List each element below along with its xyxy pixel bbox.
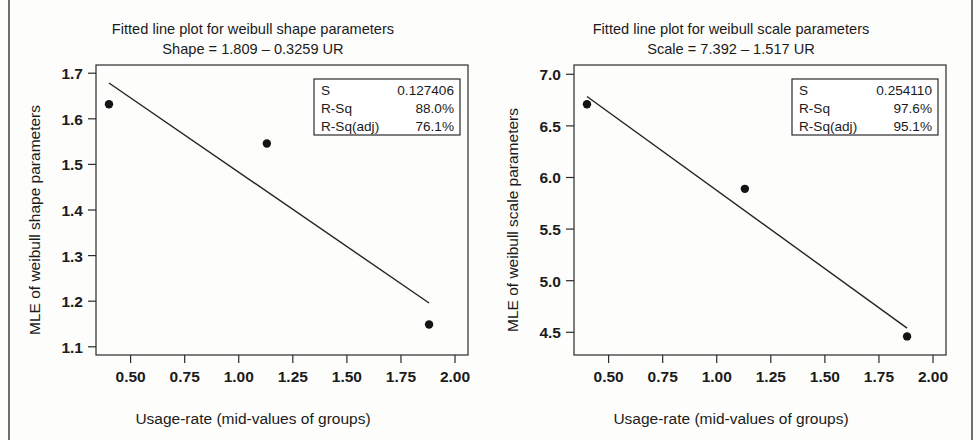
x-tick-label: 0.75 (170, 368, 201, 385)
y-tick-label: 1.3 (61, 248, 83, 265)
y-tick-label: 1.6 (61, 111, 83, 128)
x-tick-label: 1.75 (386, 368, 417, 385)
chart-title-line1: Fitted line plot for weibull scale param… (593, 21, 870, 37)
chart-svg-weibull-scale: Fitted line plot for weibull scale param… (492, 0, 970, 440)
y-tick-label: 6.5 (539, 118, 561, 135)
y-tick-label: 5.0 (539, 273, 561, 290)
y-tick-group: 1.11.21.31.41.51.61.7 (61, 65, 96, 356)
x-tick-group: 0.500.751.001.251.501.752.00 (116, 355, 471, 385)
legend-value-rsqadj: 76.1% (415, 119, 454, 134)
x-tick-label: 1.75 (864, 368, 895, 385)
stats-legend-box: S 0.254110 R-Sq 97.6% R-Sq(adj) 95.1% (792, 79, 938, 135)
chart-title-line2: Scale = 7.392 – 1.517 UR (647, 41, 815, 57)
chart-title-line2: Shape = 1.809 – 0.3259 UR (162, 41, 343, 57)
page-right-border (971, 0, 973, 440)
figure-page: Fitted line plot for weibull shape param… (0, 0, 980, 440)
x-tick-label: 0.75 (648, 368, 679, 385)
y-tick-label: 1.2 (61, 293, 83, 310)
x-tick-label: 0.50 (116, 368, 146, 385)
legend-label-rsqadj: R-Sq(adj) (321, 119, 379, 134)
x-axis-title: Usage-rate (mid-values of groups) (135, 410, 370, 427)
chart-svg-weibull-shape: Fitted line plot for weibull shape param… (14, 0, 492, 440)
y-tick-label: 1.7 (61, 65, 83, 82)
page-left-border (8, 0, 10, 440)
x-tick-label: 1.25 (278, 368, 309, 385)
data-point (425, 320, 433, 328)
y-tick-label: 6.0 (539, 169, 561, 186)
chart-panel-weibull-scale: Fitted line plot for weibull scale param… (492, 0, 970, 440)
y-tick-label: 4.5 (539, 324, 561, 341)
legend-label-rsqadj: R-Sq(adj) (799, 119, 857, 134)
legend-value-rsq: 97.6% (893, 101, 932, 116)
x-tick-label: 1.00 (702, 368, 732, 385)
chart-panel-weibull-shape: Fitted line plot for weibull shape param… (14, 0, 492, 440)
legend-value-rsqadj: 95.1% (893, 119, 932, 134)
y-tick-label: 1.4 (61, 202, 83, 219)
x-tick-label: 1.50 (332, 368, 362, 385)
x-tick-label: 0.50 (594, 368, 624, 385)
x-axis-title: Usage-rate (mid-values of groups) (613, 410, 848, 427)
data-point (263, 139, 271, 147)
x-tick-label: 1.00 (224, 368, 254, 385)
data-point (741, 185, 749, 193)
x-tick-label: 1.50 (810, 368, 840, 385)
x-tick-label: 2.00 (918, 368, 948, 385)
x-tick-label: 1.25 (756, 368, 787, 385)
data-point (903, 332, 911, 340)
legend-value-s: 0.127406 (397, 83, 454, 98)
chart-title-line1: Fitted line plot for weibull shape param… (112, 21, 394, 37)
x-tick-group: 0.500.751.001.251.501.752.00 (594, 355, 949, 385)
y-tick-label: 1.1 (61, 339, 83, 356)
data-point (105, 100, 113, 108)
legend-value-s: 0.254110 (876, 83, 932, 98)
y-axis-title: MLE of weibull scale parameters (504, 108, 521, 332)
legend-label-rsq: R-Sq (799, 101, 830, 116)
legend-label-s: S (321, 83, 330, 98)
y-tick-label: 5.5 (539, 221, 561, 238)
data-point (583, 100, 591, 108)
y-tick-label: 7.0 (539, 66, 561, 83)
legend-label-rsq: R-Sq (321, 101, 352, 116)
legend-value-rsq: 88.0% (415, 101, 454, 116)
y-axis-title: MLE of weibull shape parameters (26, 105, 43, 335)
y-tick-label: 1.5 (61, 156, 83, 173)
y-tick-group: 4.55.05.56.06.57.0 (539, 66, 574, 341)
x-tick-label: 2.00 (440, 368, 470, 385)
legend-label-s: S (799, 83, 808, 98)
stats-legend-box: S 0.127406 R-Sq 88.0% R-Sq(adj) 76.1% (314, 79, 460, 135)
